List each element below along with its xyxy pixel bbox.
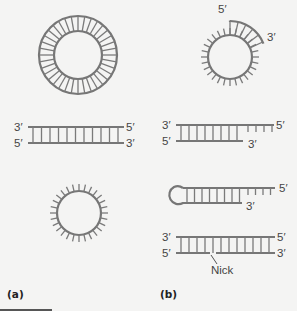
nicked-double-stranded: 3′ 5′ 5′ 3′ Nick bbox=[162, 231, 286, 276]
circular-single-stranded-dna bbox=[50, 184, 108, 242]
label-top-right: 5′ bbox=[276, 119, 285, 131]
label-top-left: 3′ bbox=[14, 121, 23, 133]
partially-double-stranded-linear: 3′ 5′ 5′ 3′ bbox=[162, 119, 285, 150]
label-top-left: 3′ bbox=[162, 231, 171, 243]
label-bottom-left: 5′ bbox=[162, 247, 171, 259]
dna-structures-figure: 5′ 3′ 3′ 5′ 5′ 3′ 3′ 5′ 5′ 3′ 5′ 3′ 3 bbox=[0, 0, 297, 311]
label-bottom-left: 5′ bbox=[14, 137, 23, 149]
panel-label-b: (b) bbox=[160, 288, 177, 300]
nick-label: Nick bbox=[211, 264, 234, 276]
label-3prime: 3′ bbox=[267, 31, 276, 43]
circle-with-partial-strand: 5′ 3′ bbox=[201, 3, 276, 86]
label-bottom-right: 3′ bbox=[246, 200, 255, 212]
hairpin: 5′ 3′ bbox=[169, 182, 287, 212]
label-top-right: 5′ bbox=[279, 182, 288, 194]
label-bottom-right: 3′ bbox=[248, 138, 257, 150]
label-top-right: 5′ bbox=[277, 231, 286, 243]
label-top-left: 3′ bbox=[162, 119, 171, 131]
label-5prime: 5′ bbox=[218, 3, 227, 15]
linear-double-stranded-dna: 3′ 5′ 5′ 3′ bbox=[14, 121, 135, 149]
label-bottom-right: 3′ bbox=[126, 137, 135, 149]
label-top-right: 5′ bbox=[126, 121, 135, 133]
label-bottom-left: 5′ bbox=[162, 135, 171, 147]
label-bottom-right: 3′ bbox=[277, 247, 286, 259]
circular-double-stranded-dna bbox=[39, 16, 117, 94]
panel-label-a: (a) bbox=[7, 288, 24, 300]
